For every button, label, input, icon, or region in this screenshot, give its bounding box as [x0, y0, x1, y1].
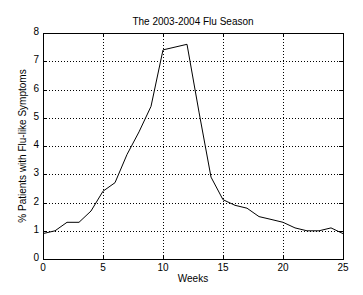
- y-tick-label: 4: [19, 140, 39, 150]
- y-tick-label: 0: [19, 253, 39, 263]
- x-axis-label: Weeks: [43, 273, 343, 284]
- x-tick-label: 5: [93, 263, 113, 273]
- plot-area: [0, 0, 363, 295]
- y-tick-label: 3: [19, 168, 39, 178]
- y-tick-label: 7: [19, 55, 39, 65]
- y-tick-label: 5: [19, 112, 39, 122]
- chart-title: The 2003-2004 Flu Season: [43, 16, 343, 27]
- x-tick-label: 25: [333, 263, 353, 273]
- y-tick-label: 6: [19, 84, 39, 94]
- x-tick-label: 20: [273, 263, 293, 273]
- x-tick-label: 0: [33, 263, 53, 273]
- y-tick-label: 8: [19, 27, 39, 37]
- data-line: [43, 44, 343, 233]
- x-tick-label: 10: [153, 263, 173, 273]
- x-tick-label: 15: [213, 263, 233, 273]
- y-tick-label: 1: [19, 225, 39, 235]
- y-tick-label: 2: [19, 197, 39, 207]
- line-chart: The 2003-2004 Flu Season Weeks % Patient…: [0, 0, 363, 295]
